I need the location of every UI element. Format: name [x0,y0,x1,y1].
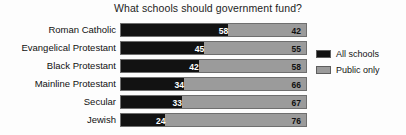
category-label: Jewish [0,114,120,126]
bar-track[interactable]: 42 58 [120,59,307,73]
chart-row: Roman Catholic 58 42 [0,22,310,37]
chart-row: Secular 33 67 [0,94,310,109]
bar-track[interactable]: 24 76 [120,113,307,127]
category-label: Evangelical Protestant [0,42,120,54]
legend-swatch-icon [316,66,331,74]
stacked-bar-chart: What schools should government fund? Rom… [0,0,406,135]
chart-legend: All schools Public only [316,47,404,79]
chart-title: What schools should government fund? [0,2,406,14]
bar-value-public-only: 58 [292,60,306,73]
legend-item-public-only[interactable]: Public only [316,63,404,76]
category-label: Roman Catholic [0,24,120,36]
bar-segment-public-only [182,96,306,108]
legend-item-all-schools[interactable]: All schools [316,47,404,60]
bar-segment-public-only [165,114,306,126]
chart-row: Mainline Protestant 34 66 [0,76,310,91]
bar-value-public-only: 67 [292,96,306,109]
category-label: Mainline Protestant [0,78,120,90]
bar-track[interactable]: 33 67 [120,95,307,109]
bar-track[interactable]: 58 42 [120,23,307,37]
bar-value-all-schools: 24 [121,114,169,127]
bar-value-public-only: 66 [292,78,306,91]
bar-value-public-only: 42 [292,24,306,37]
bar-value-public-only: 76 [292,114,306,127]
bar-value-all-schools: 42 [121,60,203,73]
category-label: Secular [0,96,120,108]
bar-segment-public-only [199,60,306,72]
bar-track[interactable]: 45 55 [120,41,307,55]
bar-value-public-only: 55 [292,42,306,55]
chart-row: Evangelical Protestant 45 55 [0,40,310,55]
bar-value-all-schools: 45 [121,42,208,55]
chart-row: Black Protestant 42 58 [0,58,310,73]
bar-value-all-schools: 58 [121,24,232,37]
chart-row: Jewish 24 76 [0,112,310,127]
category-label: Black Protestant [0,60,120,72]
legend-label: Public only [336,65,380,75]
legend-label: All schools [336,49,379,59]
bar-segment-public-only [184,78,306,90]
bar-value-all-schools: 33 [121,96,186,109]
legend-swatch-icon [316,50,331,58]
bar-value-all-schools: 34 [121,78,188,91]
bar-track[interactable]: 34 66 [120,77,307,91]
